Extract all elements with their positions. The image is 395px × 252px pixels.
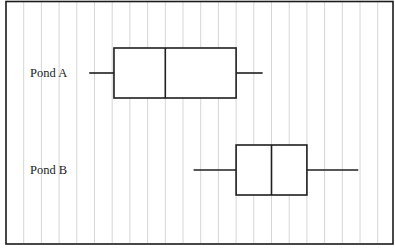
series-pond-a: Pond A	[30, 48, 263, 98]
iqr-box	[114, 48, 236, 98]
box-plot-chart: Pond A Pond B	[0, 0, 395, 252]
series-label-pond-b: Pond B	[30, 163, 67, 177]
series-pond-b: Pond B	[30, 145, 358, 195]
plot-frame	[6, 2, 393, 245]
series-label-pond-a: Pond A	[30, 66, 67, 80]
vertical-gridlines	[24, 2, 378, 243]
